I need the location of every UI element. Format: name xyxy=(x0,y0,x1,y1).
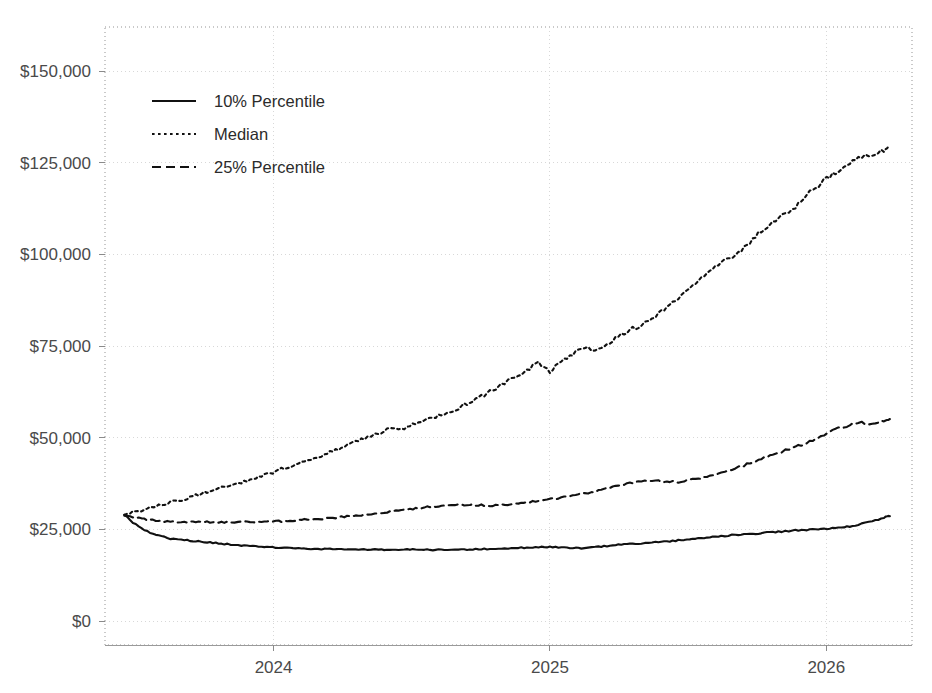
x-tick-label-1: 2025 xyxy=(531,658,569,677)
y-tick-label-0: $0 xyxy=(72,612,91,631)
y-tick-label-4: $100,000 xyxy=(20,245,91,264)
percentile-projection-line-chart: $0$25,000$50,000$75,000$100,000$125,000$… xyxy=(0,0,932,693)
y-axis-ticks xyxy=(99,71,105,621)
y-tick-label-6: $150,000 xyxy=(20,62,91,81)
y-tick-label-2: $50,000 xyxy=(30,429,91,448)
y-tick-label-5: $125,000 xyxy=(20,154,91,173)
legend-label-2: 25% Percentile xyxy=(214,158,325,176)
y-tick-label-1: $25,000 xyxy=(30,520,91,539)
data-series-group xyxy=(124,147,890,551)
plot-border xyxy=(105,27,912,645)
x-axis-tick-labels: 202420252026 xyxy=(255,658,846,677)
grid-lines xyxy=(105,27,912,645)
x-axis-ticks xyxy=(274,645,827,651)
legend: 10% PercentileMedian25% Percentile xyxy=(152,92,325,176)
chart-container: $0$25,000$50,000$75,000$100,000$125,000$… xyxy=(0,0,932,693)
x-tick-label-0: 2024 xyxy=(255,658,293,677)
y-axis-tick-labels: $0$25,000$50,000$75,000$100,000$125,000$… xyxy=(20,62,91,631)
legend-label-1: Median xyxy=(214,125,268,143)
series-line-median xyxy=(124,147,890,515)
plot-area-border xyxy=(105,27,912,645)
series-line-25-percentile xyxy=(124,419,890,523)
series-line-10-percentile xyxy=(124,515,890,551)
legend-label-0: 10% Percentile xyxy=(214,92,325,110)
x-tick-label-2: 2026 xyxy=(807,658,845,677)
y-tick-label-3: $75,000 xyxy=(30,337,91,356)
